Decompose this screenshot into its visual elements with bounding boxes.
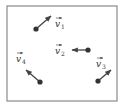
point-dot	[95, 78, 100, 83]
point-dot	[37, 79, 42, 84]
vector-label: v	[55, 19, 60, 29]
point-dot	[33, 26, 38, 31]
vector-subscript: 3	[102, 63, 106, 70]
vector-label: v	[55, 46, 60, 56]
point-dot	[85, 47, 90, 52]
vector-diagram: v1v2v3v4	[0, 0, 123, 108]
arrow-icon	[36, 16, 51, 29]
vector-v1: v1	[33, 16, 64, 32]
vector-subscript: 1	[61, 23, 65, 30]
vector-label: v	[96, 59, 101, 69]
vector-subscript: 4	[22, 58, 26, 65]
vector-label: v	[16, 54, 21, 64]
arrow-icon	[26, 70, 40, 82]
vector-subscript: 2	[61, 50, 65, 57]
vector-v3: v3	[95, 58, 111, 84]
diagram-canvas: v1v2v3v4	[0, 0, 123, 108]
vector-v4: v4	[16, 53, 43, 85]
vector-v2: v2	[55, 45, 91, 57]
